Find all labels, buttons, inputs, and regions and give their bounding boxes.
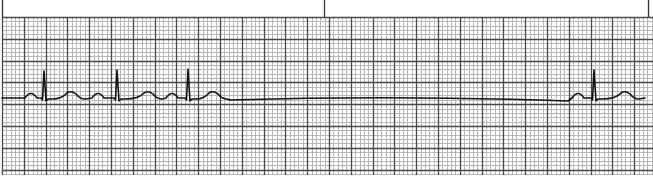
ecg-chart <box>0 0 653 178</box>
time-markers <box>3 0 649 17</box>
minor-grid <box>2 17 653 175</box>
